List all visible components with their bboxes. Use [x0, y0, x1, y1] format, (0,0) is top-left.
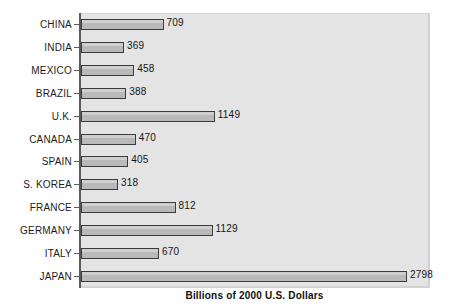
category-label: JAPAN: [0, 265, 72, 288]
x-axis-title: Billions of 2000 U.S. Dollars: [79, 290, 430, 301]
bar-highlight: [82, 112, 214, 115]
category-label: U.K.: [0, 105, 72, 128]
axis-tick: [74, 93, 79, 94]
bar-value-label: 1129: [216, 223, 238, 234]
category-label: S. KOREA: [0, 173, 72, 196]
axis-tick: [74, 24, 79, 25]
bar-highlight: [82, 249, 158, 252]
bar: [81, 202, 176, 213]
category-label: SPAIN: [0, 150, 72, 173]
bar-value-label: 1149: [218, 109, 240, 120]
bar-highlight: [82, 226, 212, 229]
bar-value-label: 388: [129, 86, 146, 97]
bar-highlight: [82, 66, 133, 69]
axis-tick: [74, 139, 79, 140]
category-label: INDIA: [0, 36, 72, 59]
axis-tick: [74, 207, 79, 208]
bar-value-label: 458: [137, 63, 154, 74]
bar-highlight: [82, 157, 127, 160]
category-label: CANADA: [0, 128, 72, 151]
category-label: BRAZIL: [0, 82, 72, 105]
bar-value-label: 405: [131, 154, 148, 165]
bar-value-label: 709: [167, 17, 184, 28]
bar-highlight: [82, 135, 135, 138]
axis-tick: [74, 253, 79, 254]
category-label: CHINA: [0, 13, 72, 36]
category-label: MEXICO: [0, 59, 72, 82]
bar-row: U.K.1149: [0, 105, 451, 128]
bar-value-label: 318: [121, 177, 138, 188]
bar: [81, 248, 159, 259]
axis-tick: [74, 70, 79, 71]
axis-tick: [74, 276, 79, 277]
axis-tick: [74, 47, 79, 48]
bar-value-label: 369: [127, 40, 144, 51]
bar-row: SPAIN405: [0, 150, 451, 173]
bar-value-label: 2798: [410, 269, 433, 280]
category-label: GERMANY: [0, 219, 72, 242]
bar: [81, 271, 407, 282]
axis-tick: [74, 184, 79, 185]
bar-highlight: [82, 20, 163, 23]
category-label: ITALY: [0, 242, 72, 265]
bar-row: GERMANY1129: [0, 219, 451, 242]
axis-tick: [74, 161, 79, 162]
bar-row: CHINA709: [0, 13, 451, 36]
bar-row: CANADA470: [0, 128, 451, 151]
bar: [81, 65, 134, 76]
bar-value-label: 470: [139, 132, 156, 143]
category-label: FRANCE: [0, 196, 72, 219]
bar: [81, 42, 124, 53]
bar: [81, 88, 126, 99]
bar-row: ITALY670: [0, 242, 451, 265]
bar-row: BRAZIL388: [0, 82, 451, 105]
axis-tick: [74, 116, 79, 117]
bar: [81, 19, 164, 30]
bar-highlight: [82, 180, 117, 183]
axis-tick: [74, 230, 79, 231]
bar-value-label: 670: [162, 246, 179, 257]
bar: [81, 156, 128, 167]
bar: [81, 225, 213, 236]
bar: [81, 179, 118, 190]
bar: [81, 134, 136, 145]
bar-row: MEXICO458: [0, 59, 451, 82]
bar-highlight: [82, 272, 406, 275]
bar-highlight: [82, 43, 123, 46]
bar-row: S. KOREA318: [0, 173, 451, 196]
bar-value-label: 812: [179, 200, 196, 211]
bar-row: INDIA369: [0, 36, 451, 59]
bar-chart: CHINA709INDIA369MEXICO458BRAZIL388U.K.11…: [0, 0, 451, 308]
bar-highlight: [82, 89, 125, 92]
bar-highlight: [82, 203, 175, 206]
bar-row: FRANCE812: [0, 196, 451, 219]
bar: [81, 111, 215, 122]
bar-row: JAPAN2798: [0, 265, 451, 288]
